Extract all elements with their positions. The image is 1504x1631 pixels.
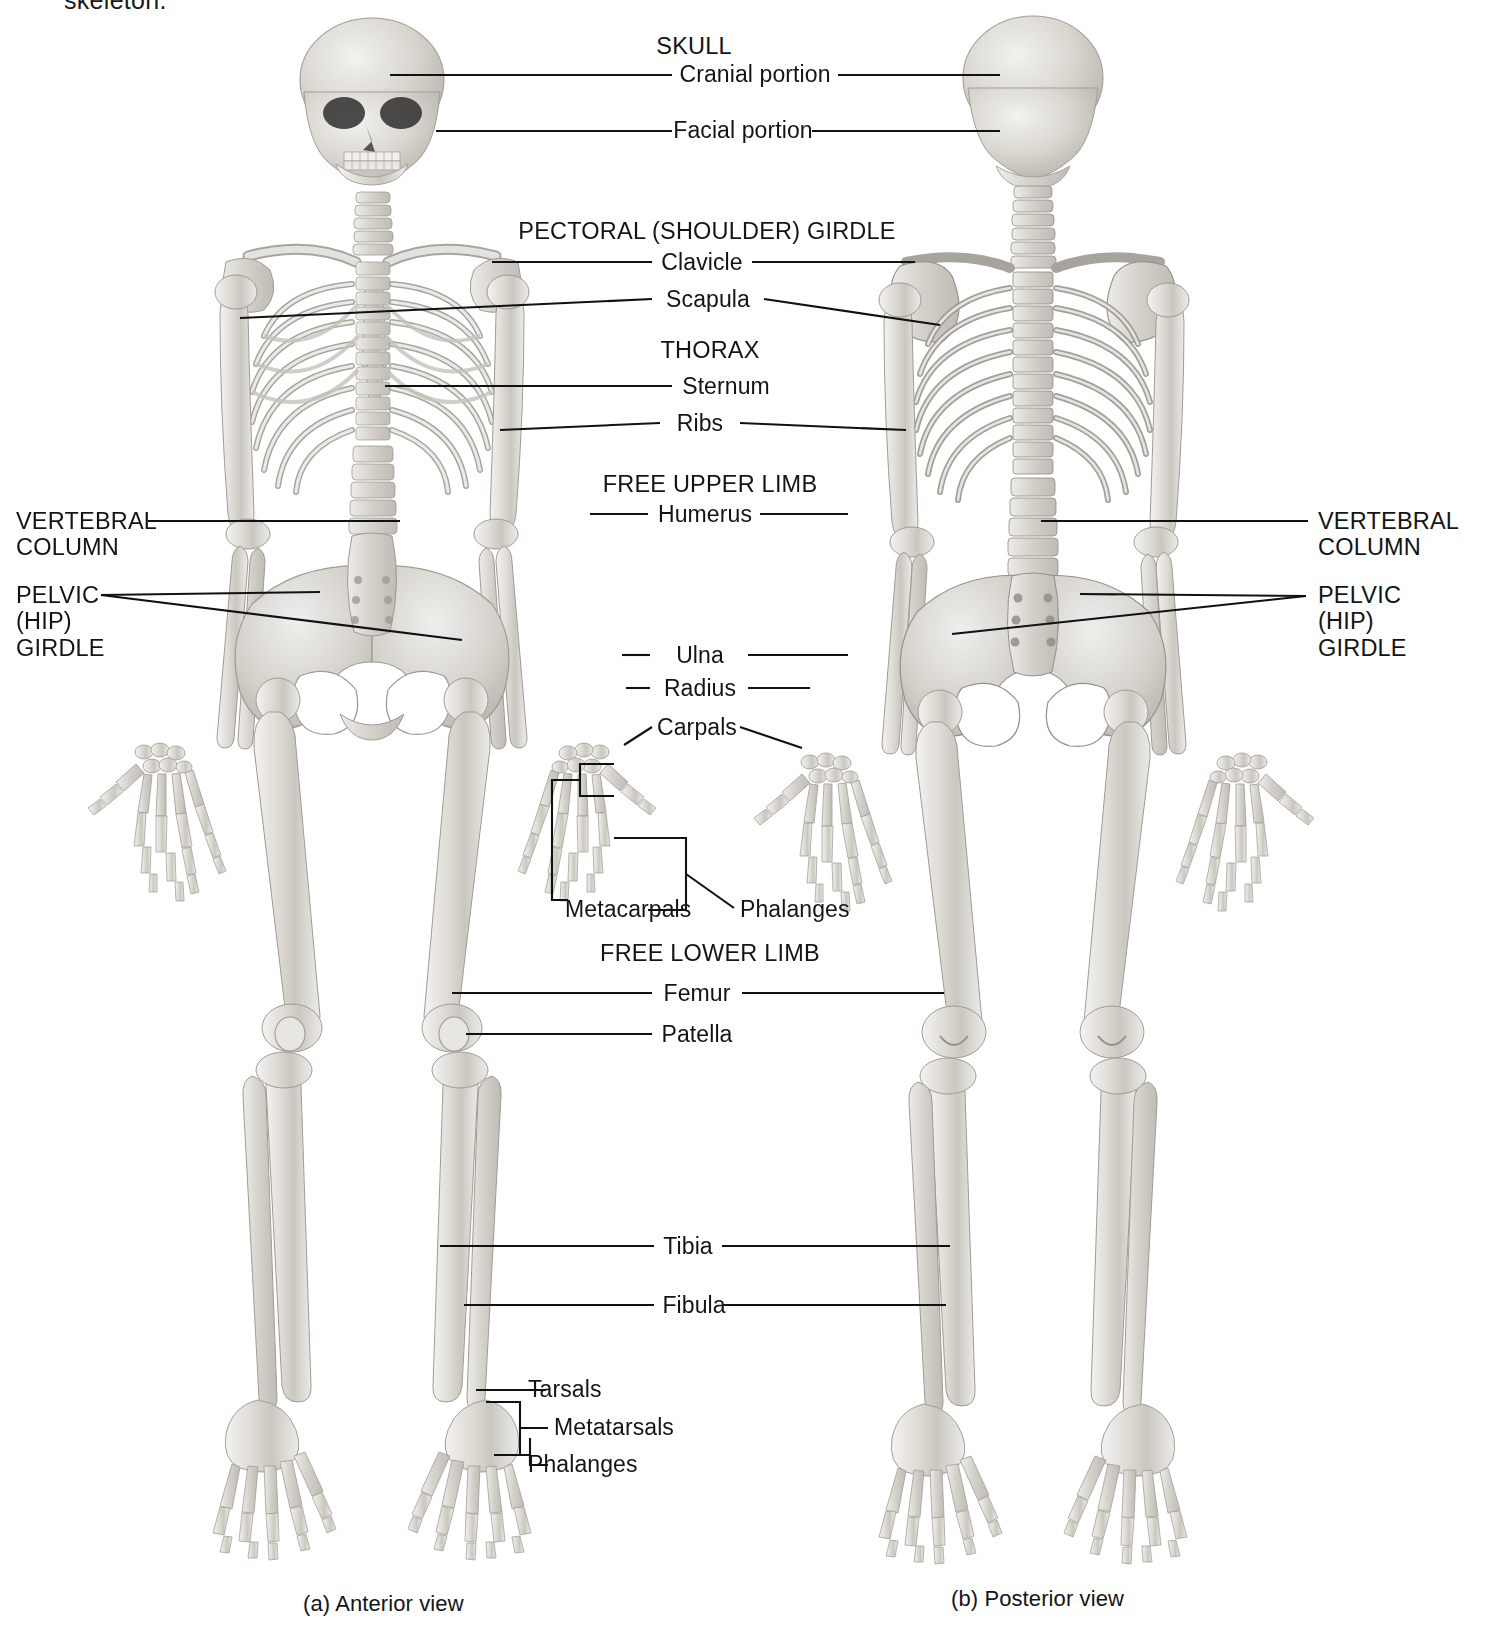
label-humerus: Humerus xyxy=(658,502,752,528)
heading-skull: SKULL xyxy=(656,33,731,59)
pelvic-girdle-left-line2: (HIP) xyxy=(16,608,105,634)
label-metatarsals: Metatarsals xyxy=(554,1415,674,1441)
label-pelvic-girdle-left: PELVIC (HIP) GIRDLE xyxy=(16,582,105,661)
label-scapula: Scapula xyxy=(666,287,750,313)
label-phalanges-foot: Phalanges xyxy=(528,1452,638,1478)
label-vertebral-column-right: VERTEBRAL COLUMN xyxy=(1318,508,1459,561)
heading-pectoral-girdle: PECTORAL (SHOULDER) GIRDLE xyxy=(518,218,895,244)
label-tibia: Tibia xyxy=(663,1234,713,1260)
label-facial-portion: Facial portion xyxy=(673,118,812,144)
pelvic-girdle-left-line1: PELVIC xyxy=(16,582,105,608)
label-phalanges-hand: Phalanges xyxy=(740,897,850,923)
figure-canvas: skeleton. xyxy=(0,0,1504,1631)
caption-posterior-view: (b) Posterior view xyxy=(951,1587,1124,1612)
pelvic-girdle-right-line1: PELVIC xyxy=(1318,582,1407,608)
label-pelvic-girdle-right: PELVIC (HIP) GIRDLE xyxy=(1318,582,1407,661)
skeleton-illustration xyxy=(0,0,1504,1631)
heading-free-lower-limb: FREE LOWER LIMB xyxy=(600,940,820,966)
vertebral-column-left-line1: VERTEBRAL xyxy=(16,508,157,534)
label-ribs: Ribs xyxy=(677,411,723,437)
pelvic-girdle-right-line2: (HIP) xyxy=(1318,608,1407,634)
pelvic-girdle-left-line3: GIRDLE xyxy=(16,635,105,661)
label-clavicle: Clavicle xyxy=(661,250,742,276)
label-fibula: Fibula xyxy=(662,1293,725,1319)
heading-thorax: THORAX xyxy=(660,337,759,363)
label-cranial-portion: Cranial portion xyxy=(679,62,830,88)
label-metacarpals: Metacarpals xyxy=(565,897,691,923)
label-radius: Radius xyxy=(664,676,736,702)
vertebral-column-left-line2: COLUMN xyxy=(16,534,157,560)
heading-free-upper-limb: FREE UPPER LIMB xyxy=(603,471,818,497)
vertebral-column-right-line1: VERTEBRAL xyxy=(1318,508,1459,534)
vertebral-column-right-line2: COLUMN xyxy=(1318,534,1459,560)
label-ulna: Ulna xyxy=(676,643,724,669)
pelvic-girdle-right-line3: GIRDLE xyxy=(1318,635,1407,661)
label-patella: Patella xyxy=(661,1022,732,1048)
caption-anterior-view: (a) Anterior view xyxy=(303,1592,464,1617)
label-tarsals: Tarsals xyxy=(528,1377,602,1403)
label-carpals: Carpals xyxy=(657,715,737,741)
label-sternum: Sternum xyxy=(682,374,770,400)
label-femur: Femur xyxy=(664,981,731,1007)
label-vertebral-column-left: VERTEBRAL COLUMN xyxy=(16,508,157,561)
